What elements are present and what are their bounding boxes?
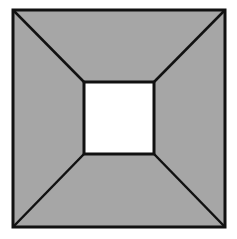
inner-square bbox=[84, 82, 154, 154]
pyramid-frustum-diagram bbox=[0, 0, 237, 239]
